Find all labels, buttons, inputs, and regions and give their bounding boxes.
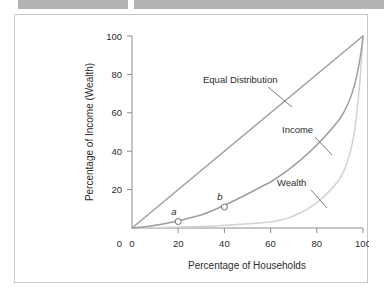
- point-a-label: a: [171, 206, 176, 217]
- label-equal-distribution: Equal Distribution: [203, 74, 277, 85]
- x-tick-label-0: 0: [129, 238, 134, 249]
- x-axis-title: Percentage of Households: [188, 260, 306, 271]
- x-tick-label-20: 20: [173, 238, 184, 249]
- header-bar-left: [18, 0, 128, 9]
- page-header-bars: [0, 0, 384, 9]
- figure-card: 100 80 60 40 20 0 0 20 40 60 80 100 Perc…: [14, 14, 368, 283]
- annotation-leaders: [268, 87, 332, 208]
- y-tick-label-100: 100: [106, 31, 122, 42]
- y-tick-label-60: 60: [111, 107, 122, 118]
- x-tick-label-80: 80: [312, 238, 323, 249]
- x-tick-label-40: 40: [219, 238, 230, 249]
- lorenz-curve-chart: 100 80 60 40 20 0 0 20 40 60 80 100 Perc…: [15, 15, 369, 284]
- y-axis-title: Percentage of Income (Wealth): [84, 63, 95, 201]
- x-tick-label-100: 100: [355, 238, 369, 249]
- x-tick-label-60: 60: [265, 238, 276, 249]
- label-income: Income: [282, 124, 313, 135]
- y-tick-label-40: 40: [111, 146, 122, 157]
- label-wealth: Wealth: [277, 177, 306, 188]
- y-tick-label-20: 20: [111, 184, 122, 195]
- y-tick-label-0: 0: [117, 238, 122, 249]
- header-bar-right: [134, 0, 384, 9]
- y-axis-ticks: [127, 36, 132, 190]
- point-b-label: b: [217, 191, 222, 202]
- y-tick-label-80: 80: [111, 69, 122, 80]
- x-axis-ticks: [178, 228, 363, 233]
